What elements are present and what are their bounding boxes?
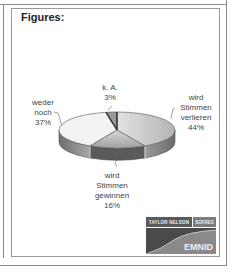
logo-emnid: EMNID <box>184 242 213 252</box>
pie-top <box>59 112 175 148</box>
label-weder-noch: weder noch 37% <box>28 98 58 128</box>
label-verlieren: wird Stimmen verlieren 44% <box>176 93 216 133</box>
logo-taylor-nelson: TAYLOR NELSON <box>146 217 192 227</box>
logo-sofres: SOFRES <box>193 217 216 227</box>
label-ka: k. A. 3% <box>95 83 125 103</box>
tns-emnid-logo: TAYLOR NELSON SOFRES EMNID <box>146 217 216 254</box>
label-gewinnen: wird Stimmen gewinnen 16% <box>92 171 132 211</box>
